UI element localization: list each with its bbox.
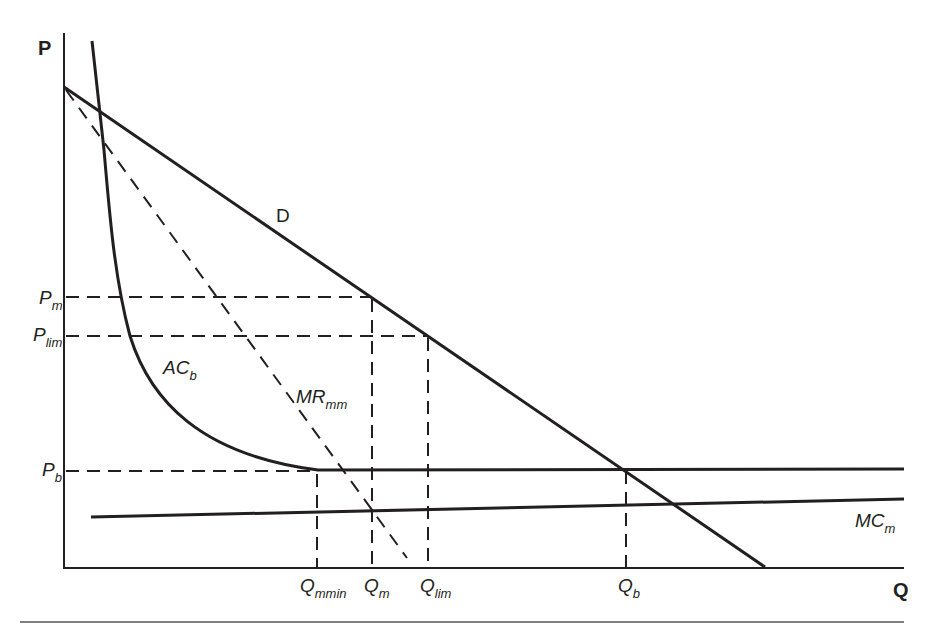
limit-pricing-diagram: P Q Pm Plim Pb Qmmin Qm Qlim Qb D ACb (0, 0, 933, 635)
qlim-label: Qlim (420, 575, 452, 601)
pb-label: Pb (42, 459, 62, 485)
demand-curve (64, 87, 765, 567)
qm-label: Qm (364, 575, 390, 601)
qb-label: Qb (618, 575, 640, 601)
marginal-revenue-curve (66, 90, 407, 558)
plim-label: Plim (33, 324, 62, 350)
x-axis-label: Q (893, 579, 909, 601)
qmmin-label: Qmmin (300, 575, 347, 601)
pm-label: Pm (39, 287, 63, 313)
marginal-revenue-label: MRmm (296, 386, 347, 412)
y-axis-label: P (38, 37, 51, 59)
demand-label: D (276, 205, 290, 226)
marginal-cost-label: MCm (855, 510, 896, 536)
marginal-cost-curve (91, 499, 904, 517)
average-cost-label: ACb (162, 357, 197, 383)
average-cost-curve (92, 41, 904, 470)
